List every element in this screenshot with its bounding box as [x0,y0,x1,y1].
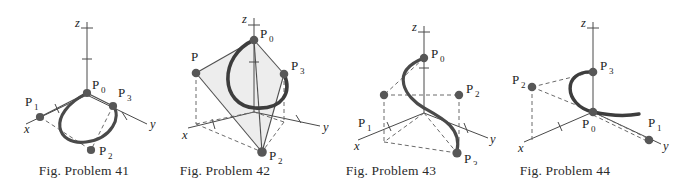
control-point-p3 [280,70,289,79]
point-label-p3: P [118,85,125,100]
bezier-curve [60,93,117,142]
control-point-p0 [589,108,598,117]
figure-42-diagram: z x y P 0 P P 2 P 3 [168,0,338,165]
control-point-p2 [87,146,95,154]
figure-problem-42: z x y P 0 P P 2 P 3 Fig. Problem 42 [168,0,338,189]
control-point-p1 [192,69,201,78]
point-label-p3: P [600,58,607,73]
bezier-curve [403,58,458,151]
x-axis-label: x [181,128,188,142]
point-label-p0: P [92,77,99,92]
point-label-p0-sub: 0 [440,54,445,64]
point-label-p2-sub: 2 [108,151,113,161]
figure-43-diagram: z x y P 0 P 1 P 2 P 3 [338,0,506,165]
control-point-p0 [250,36,259,45]
point-label-p1: P [358,115,365,130]
point-label-p1: P [25,94,32,109]
point-label-p0: P [431,46,438,61]
point-label-p0: P [582,116,589,131]
point-label-p0-sub: 0 [101,85,106,95]
point-label-p0: P [260,26,267,41]
point-label-p1-sub: 1 [34,102,39,112]
y-axis-label: y [321,120,329,134]
bezier-curve [570,72,639,116]
x-axis-label: x [353,139,360,153]
point-label-p1: P [648,115,655,130]
figure-44-caption: Fig. Problem 44 [490,163,640,179]
figure-problem-44: z x y P 0 P 1 P 2 P 3 Fig. Problem 44 [506,0,677,189]
figure-problem-43: z x y P 0 P 1 P 2 P 3 Fig. Problem 43 [338,0,506,189]
figure-41-diagram: z x y P 0 P 1 P 2 P 3 [0,0,168,165]
z-axis [418,26,430,113]
control-point-p2 [455,91,463,99]
figure-43-caption: Fig. Problem 43 [316,163,466,179]
y-axis-label: y [148,117,156,131]
control-point-p0 [420,54,428,62]
control-point-p3 [452,148,461,157]
point-label-p2-sub: 2 [521,80,526,90]
figure-44-diagram: z x y P 0 P 1 P 2 P 3 [506,0,677,165]
control-point-p2 [257,147,267,157]
point-label-p2-sub: 2 [475,89,480,99]
point-label-p3: P [291,58,298,73]
z-axis-label: z [580,16,586,30]
point-label-p1-sub: 1 [367,123,372,133]
control-point-p1 [645,136,654,145]
z-axis-label: z [241,12,247,26]
control-plane-shading [196,40,284,152]
control-point-p2 [528,83,537,92]
figure-problem-41: z x y P 0 P 1 P 2 P 3 Fig. Problem 41 [0,0,168,189]
control-polygon-solid [40,93,113,117]
point-label-p1-sub: 1 [657,123,662,133]
point-label-p2: P [512,72,519,87]
x-axis-label: x [23,122,30,136]
point-label-p0-sub: 0 [591,124,596,134]
figure-41-caption: Fig. Problem 41 [0,163,168,179]
y-axis-label: y [488,132,496,146]
control-point-p1 [36,113,44,121]
control-point-p3 [109,102,117,110]
point-label-p0-sub: 0 [269,34,274,44]
figure-42-caption: Fig. Problem 42 [150,163,300,179]
point-label-p2: P [466,81,473,96]
point-label-p2: P [269,148,276,163]
control-point-p0 [83,89,91,97]
z-axis-label: z [74,16,80,30]
z-axis [587,22,599,112]
control-point-p3 [589,68,598,77]
point-label-p3-sub: 3 [609,66,614,76]
z-axis-label: z [411,20,417,34]
x-axis-label: x [517,141,524,155]
point-label-p2: P [99,143,106,158]
y-axis-label: y [661,139,669,153]
figure-strip: z x y P 0 P 1 P 2 P 3 Fig. Problem 41 [0,0,677,189]
point-label-p3-sub: 3 [127,93,132,103]
point-label-p3-sub: 3 [300,66,305,76]
control-point-p1 [380,91,388,99]
point-label-p3-sub: 3 [473,159,478,165]
point-label-p1: P [191,49,198,64]
